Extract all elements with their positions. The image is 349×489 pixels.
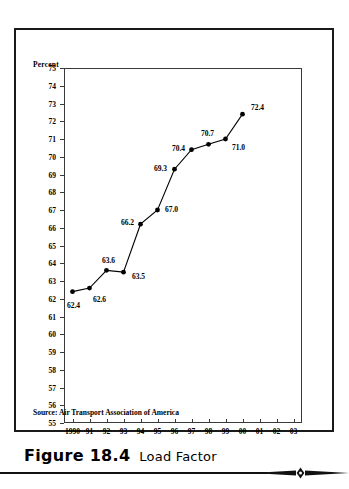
y-tick-label: 73 [16,99,56,108]
data-point-marker [104,268,109,273]
y-tick-label: 63 [16,277,56,286]
y-tick-label: 55 [16,419,56,428]
x-tick-label: 94 [137,427,145,436]
y-tick-label: 75 [16,64,56,73]
data-point-label: 63.5 [132,272,145,281]
y-tick-label: 67 [16,206,56,215]
x-tick-label: 1990 [65,427,80,436]
y-tick-label: 70 [16,152,56,161]
y-tick-label: 68 [16,188,56,197]
figure-caption: Figure 18.4 Load Factor [24,446,324,468]
data-point-label: 62.6 [93,295,106,304]
figure-number: Figure 18.4 [24,446,130,465]
data-point-label: 67.0 [165,205,178,214]
y-tick-mark [60,423,64,424]
data-point-label: 70.4 [172,143,185,152]
data-point-label: 66.2 [121,218,134,227]
y-tick-label: 66 [16,223,56,232]
x-tick-label: 96 [171,427,179,436]
y-tick-label: 60 [16,330,56,339]
y-tick-label: 62 [16,294,56,303]
data-point-label: 72.4 [251,103,264,112]
figure-box: Percent 75747372717069686766656463626160… [14,28,334,432]
y-tick-label: 72 [16,117,56,126]
data-point-marker [223,137,228,142]
x-tick-label: 00 [239,427,247,436]
figure-title: Load Factor [139,449,216,464]
x-tick-label: 99 [222,427,230,436]
source-note: Source: Air Transport Association of Ame… [33,408,179,417]
y-tick-label: 69 [16,170,56,179]
y-tick-label: 59 [16,348,56,357]
data-point-marker [121,270,126,275]
data-point-marker [155,208,160,213]
data-point-marker [87,286,92,291]
y-tick-label: 58 [16,365,56,374]
series-polyline [73,114,243,292]
series-markers [70,112,245,294]
data-point-label: 63.6 [102,256,115,265]
data-point-marker [240,112,245,117]
x-tick-label: 93 [120,427,128,436]
y-tick-label: 65 [16,241,56,250]
caption-rule [0,472,268,474]
y-tick-label: 64 [16,259,56,268]
y-tick-label: 57 [16,383,56,392]
data-point-marker [206,142,211,147]
data-point-marker [189,147,194,152]
data-point-label: 71.0 [232,143,245,152]
line-series [64,68,302,423]
data-point-marker [70,289,75,294]
data-point-marker [138,222,143,227]
x-tick-label: 95 [154,427,162,436]
y-tick-label: 71 [16,135,56,144]
data-point-marker [172,167,177,172]
x-tick-label: 91 [86,427,94,436]
x-tick-label: 97 [188,427,196,436]
data-point-label: 70.7 [201,129,214,138]
x-tick-label: 02 [273,427,281,436]
data-point-label: 62.4 [67,300,80,309]
data-point-label: 69.3 [154,164,167,173]
chart-plot-area: Percent 75747372717069686766656463626160… [16,30,336,434]
x-tick-label: 98 [205,427,213,436]
diamond-ornament-icon [252,466,349,480]
x-tick-label: 01 [256,427,264,436]
y-tick-label: 74 [16,81,56,90]
x-tick-label: 92 [103,427,111,436]
x-tick-label: 03 [290,427,298,436]
y-tick-label: 61 [16,312,56,321]
